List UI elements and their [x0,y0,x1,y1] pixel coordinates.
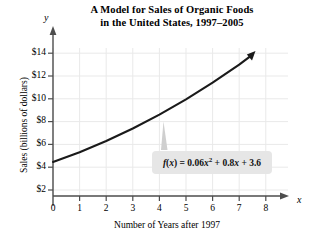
y-axis-variable-label: y [44,12,48,23]
plot-area [0,0,312,236]
organic-foods-sales-chart: A Model for Sales of Organic Foods in th… [0,0,312,236]
equation-annotation-text: f(x) = 0.06x2 + 0.8x + 3.6 [163,156,261,168]
x-axis-title: Number of Years after 1997 [52,220,282,230]
x-tick-label-7: 7 [232,203,246,213]
x-tick-label-1: 1 [73,203,87,213]
equation-variable-2: x [234,159,239,169]
x-axis-variable-label: x [297,194,301,205]
equation-exponent: 2 [209,156,213,164]
x-tick-label-4: 4 [152,203,166,213]
callout-leader-line [161,122,168,151]
equation-arg: x [169,159,174,169]
x-tick-label-3: 3 [126,203,140,213]
x-axis [53,193,289,201]
x-tick-label-0: 0 [46,203,60,213]
equation-annotation-box: f(x) = 0.06x2 + 0.8x + 3.6 [152,151,272,174]
x-tick-label-2: 2 [99,203,113,213]
x-tick-label-6: 6 [206,203,220,213]
equation-f-of-x: f [163,159,166,169]
x-tick-label-5: 5 [179,203,193,213]
data-curve [53,51,256,162]
x-tick-label-8: 8 [259,203,273,213]
y-axis-title: Sales (billions of dollars) [19,50,29,200]
